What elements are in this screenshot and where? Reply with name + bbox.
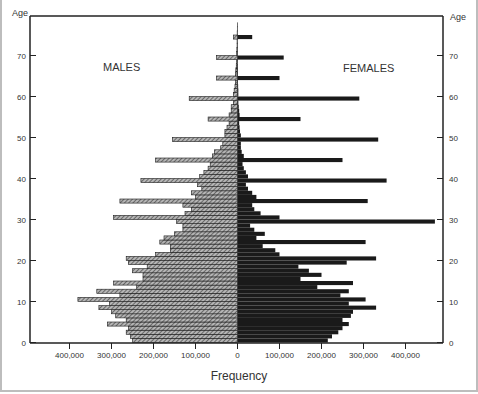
female-bar [238, 56, 284, 60]
female-bar [238, 326, 343, 330]
male-bar [237, 60, 238, 64]
female-bar [238, 240, 366, 244]
female-bar [238, 285, 318, 289]
female-bar [238, 97, 360, 101]
female-bar [238, 125, 240, 129]
male-bar [235, 80, 237, 84]
male-bar [130, 334, 237, 338]
male-bar [191, 191, 237, 195]
male-bar [231, 105, 237, 109]
female-bar [238, 84, 239, 88]
male-bar [183, 224, 238, 228]
y-tick-label-left: 20 [17, 257, 26, 266]
female-bar [238, 158, 343, 162]
x-tick-label: 0 [235, 351, 240, 360]
male-bar [141, 179, 238, 183]
male-bar [160, 240, 238, 244]
male-bar [128, 326, 237, 330]
male-bar [235, 72, 237, 76]
female-bar [238, 166, 244, 170]
male-bar [109, 302, 237, 306]
male-bar [133, 338, 238, 342]
female-bar [238, 302, 349, 306]
female-bar [238, 306, 377, 310]
male-bar [78, 297, 238, 301]
male-bar [208, 117, 237, 121]
x-tick-label: 200,000 [307, 351, 336, 360]
x-tick-label: 300,000 [97, 351, 126, 360]
male-bar [225, 133, 238, 137]
y-tick-label-left: 30 [17, 216, 26, 225]
female-bar [238, 179, 387, 183]
x-tick-label: 200,000 [139, 351, 168, 360]
female-bar [238, 88, 239, 92]
female-bar [238, 183, 246, 187]
male-bar [133, 269, 238, 273]
female-bar [238, 215, 280, 219]
y-tick-label-right: 20 [449, 257, 458, 266]
female-bar [238, 195, 257, 199]
female-bar [238, 142, 241, 146]
male-bar [237, 47, 238, 51]
male-bar [116, 314, 238, 318]
male-bar [196, 195, 238, 199]
male-bar [126, 256, 237, 260]
female-bar [238, 138, 379, 142]
male-bar [191, 207, 237, 211]
male-bar [233, 101, 237, 105]
male-bar [204, 170, 238, 174]
male-bar [229, 113, 237, 117]
male-bar [156, 252, 238, 256]
male-bar [236, 68, 238, 72]
male-bar [120, 293, 238, 297]
male-bar [236, 64, 237, 68]
y-tick-label-right: 50 [449, 134, 458, 143]
male-bar [143, 273, 238, 277]
female-bar [238, 232, 265, 236]
male-bar [217, 76, 238, 80]
female-bar [238, 277, 301, 281]
male-bar [233, 92, 237, 96]
female-bar [238, 191, 253, 195]
female-bar [238, 170, 246, 174]
y-tick-label-left: 40 [17, 175, 26, 184]
male-bar [126, 318, 237, 322]
male-bar [208, 166, 237, 170]
y-tick-label-right: 30 [449, 216, 458, 225]
male-bar [221, 146, 238, 150]
female-bar [238, 109, 240, 113]
male-bar [185, 211, 238, 215]
male-bar [112, 310, 238, 314]
male-bar [198, 183, 238, 187]
x-tick-label: 400,000 [55, 351, 84, 360]
male-bar [229, 121, 237, 125]
y-tick-label-left: 10 [17, 298, 26, 307]
male-bar [233, 35, 237, 39]
female-bar [238, 133, 241, 137]
male-bar [223, 142, 238, 146]
female-bar [238, 236, 257, 240]
female-bar [238, 256, 377, 260]
y-tick-label-left: 70 [17, 52, 26, 61]
y-tick-label-left: 0 [22, 339, 27, 348]
female-bar [238, 334, 333, 338]
male-bar [183, 203, 238, 207]
y-tick-label-right: 60 [449, 93, 458, 102]
y-tick-label-left: 60 [17, 93, 26, 102]
male-bar [114, 281, 238, 285]
female-bar [238, 293, 341, 297]
female-bar [238, 121, 240, 125]
female-bar [238, 154, 244, 158]
male-bar [210, 162, 237, 166]
male-bar [137, 285, 238, 289]
y-tick-label-right: 0 [449, 339, 454, 348]
female-bar [238, 289, 349, 293]
females-label: FEMALES [343, 62, 394, 74]
female-bar [238, 248, 276, 252]
male-bar [200, 174, 238, 178]
male-bar [214, 150, 237, 154]
male-bar [189, 97, 237, 101]
male-bar [235, 84, 238, 88]
male-bar [177, 220, 238, 224]
y-tick-label-left: 50 [17, 134, 26, 143]
